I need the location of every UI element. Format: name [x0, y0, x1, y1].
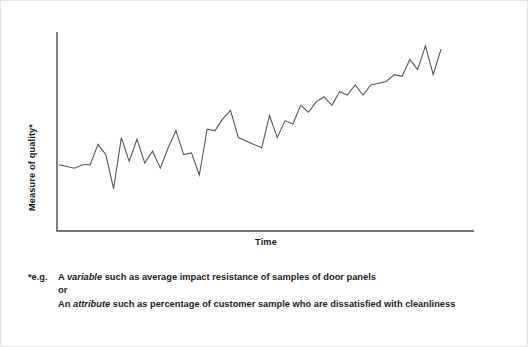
footnote-line-1-pre: A — [58, 272, 67, 282]
footnote-line-3-emphasis: attribute — [73, 299, 110, 309]
footnote-line-1: *e.g.A variable such as average impact r… — [28, 271, 518, 284]
footnote-line-2-text: or — [58, 284, 67, 297]
footnote-marker: *e.g. — [28, 271, 58, 284]
x-axis-label: Time — [57, 237, 475, 247]
quality-over-time-line-chart — [1, 1, 528, 263]
footnote-block: *e.g.A variable such as average impact r… — [28, 271, 518, 311]
footnote-line-3-text: An attribute such as percentage of custo… — [58, 298, 455, 311]
y-axis-label-text: Measure of quality* — [27, 81, 37, 211]
quality-series-line — [59, 46, 441, 189]
footnote-line-3-post: such as percentage of customer sample wh… — [110, 299, 455, 309]
footnote-line-3: An attribute such as percentage of custo… — [28, 298, 518, 311]
footnote-line-1-post: such as average impact resistance of sam… — [102, 272, 376, 282]
footnote-line-2: or — [28, 284, 518, 297]
footnote-line-1-text: A variable such as average impact resist… — [58, 271, 376, 284]
footnote-line-3-pre: An — [58, 299, 73, 309]
chart-plot-area: Measure of quality* Time — [1, 1, 528, 263]
figure-container: Measure of quality* Time *e.g.A variable… — [0, 0, 528, 347]
footnote-line-1-emphasis: variable — [67, 272, 102, 282]
y-axis-label: Measure of quality* — [27, 0, 37, 81]
